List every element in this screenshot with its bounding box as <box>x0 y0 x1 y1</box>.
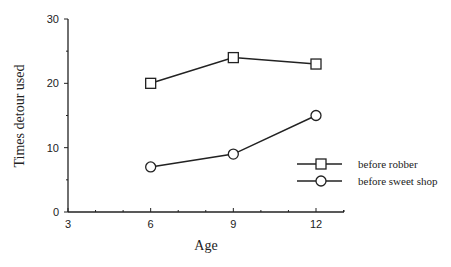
y-tick-label: 30 <box>47 13 59 25</box>
circle-marker <box>311 111 321 121</box>
circle-marker <box>228 149 238 159</box>
legend-label: before sweet shop <box>358 175 438 187</box>
line-chart: 010203036912 Times detour used Age befor… <box>0 0 451 267</box>
x-tick-label: 9 <box>230 218 236 230</box>
y-axis-title: Times detour used <box>12 65 27 168</box>
y-tick-label: 10 <box>47 142 59 154</box>
x-tick-label: 6 <box>148 218 154 230</box>
square-marker <box>228 53 238 63</box>
axes <box>68 19 344 212</box>
legend-label: before robber <box>358 158 418 170</box>
square-marker <box>316 159 326 169</box>
y-tick-label: 20 <box>47 77 59 89</box>
legend-item: before sweet shop <box>297 175 438 187</box>
circle-marker <box>146 162 156 172</box>
square-marker <box>146 78 156 88</box>
x-tick-label: 12 <box>310 218 322 230</box>
x-axis-title: Age <box>194 238 217 253</box>
circle-marker <box>316 176 326 186</box>
ticks: 010203036912 <box>47 13 344 230</box>
square-marker <box>311 59 321 69</box>
series-group <box>146 53 321 172</box>
x-tick-label: 3 <box>65 218 71 230</box>
series-before-sweet-shop <box>146 111 321 172</box>
y-tick-label: 0 <box>53 206 59 218</box>
legend: before robberbefore sweet shop <box>297 158 438 187</box>
series-before-robber <box>146 53 321 89</box>
legend-item: before robber <box>297 158 418 170</box>
